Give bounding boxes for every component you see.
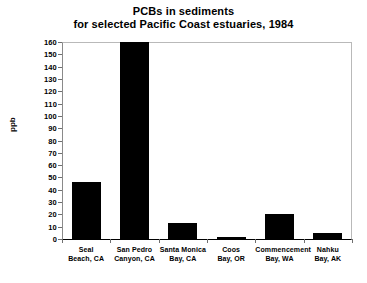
y-axis-tick-label: 70 xyxy=(48,148,62,157)
x-axis-category-label-line: Nahku xyxy=(304,245,352,254)
x-axis-category-label-line: San Pedro xyxy=(110,245,158,254)
chart-title: PCBs in sediments for selected Pacific C… xyxy=(0,5,367,31)
x-axis-category-label: NahkuBay, AK xyxy=(304,245,352,263)
y-axis-tick-label: 160 xyxy=(44,38,62,47)
x-axis-tick-mark xyxy=(110,239,111,243)
x-axis-category-label-line: Commencement xyxy=(255,245,303,254)
chart-title-line-1: PCBs in sediments xyxy=(0,5,367,18)
x-axis-tick-mark xyxy=(62,239,63,243)
x-axis-category-label-line: Seal xyxy=(62,245,110,254)
y-axis-tick-label: 80 xyxy=(48,136,62,145)
y-axis-tick-label: 150 xyxy=(44,50,62,59)
x-axis-category-label: SealBeach, CA xyxy=(62,245,110,263)
x-axis-category-label-line: Coos xyxy=(207,245,255,254)
bar xyxy=(217,237,246,239)
bar xyxy=(168,223,197,239)
y-axis-tick-label: 120 xyxy=(44,87,62,96)
y-axis-tick-label: 20 xyxy=(48,210,62,219)
y-axis-tick-label: 50 xyxy=(48,173,62,182)
x-axis-labels: SealBeach, CASan PedroCanyon, CASanta Mo… xyxy=(62,245,352,269)
y-axis-tick-label: 40 xyxy=(48,185,62,194)
y-axis-tick-label: 60 xyxy=(48,161,62,170)
bar xyxy=(265,214,294,239)
y-axis-tick-label: 0 xyxy=(53,235,62,244)
x-axis-category-label-line: Bay, AK xyxy=(304,254,352,263)
y-axis-tick-label: 110 xyxy=(44,99,62,108)
y-axis-tick-label: 130 xyxy=(44,74,62,83)
x-axis-tick-mark xyxy=(304,239,305,243)
y-axis-tick-label: 140 xyxy=(44,62,62,71)
x-axis-category-label: CoosBay, OR xyxy=(207,245,255,263)
x-axis-category-label: San PedroCanyon, CA xyxy=(110,245,158,263)
x-axis-category-label-line: Beach, CA xyxy=(62,254,110,263)
x-axis-category-label: Santa MonicaBay, CA xyxy=(159,245,207,263)
x-axis-tick-mark xyxy=(159,239,160,243)
x-axis-category-label-line: Bay, OR xyxy=(207,254,255,263)
bar xyxy=(313,233,342,239)
plot-area: 0102030405060708090100110120130140150160 xyxy=(62,42,352,239)
y-axis-tick-label: 100 xyxy=(44,111,62,120)
x-axis-tick-mark xyxy=(207,239,208,243)
x-axis-tick-mark xyxy=(255,239,256,243)
y-axis-tick-label: 10 xyxy=(48,222,62,231)
x-axis-category-label: CommencementBay, WA xyxy=(255,245,303,263)
x-axis-category-label-line: Santa Monica xyxy=(159,245,207,254)
x-axis-category-label-line: Bay, WA xyxy=(255,254,303,263)
x-axis-category-label-line: Canyon, CA xyxy=(110,254,158,263)
y-axis-title: ppb xyxy=(8,92,17,132)
bar-chart-figure: PCBs in sediments for selected Pacific C… xyxy=(0,0,367,283)
bar xyxy=(120,42,149,239)
y-axis-tick-label: 30 xyxy=(48,198,62,207)
bar xyxy=(72,182,101,239)
y-axis-tick-label: 90 xyxy=(48,124,62,133)
x-axis-tick-mark xyxy=(352,239,353,243)
chart-title-line-2: for selected Pacific Coast estuaries, 19… xyxy=(0,18,367,31)
x-axis-category-label-line: Bay, CA xyxy=(159,254,207,263)
